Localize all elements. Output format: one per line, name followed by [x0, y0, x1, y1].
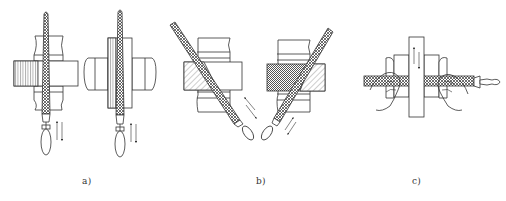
diagonal-filing-illustration [160, 0, 340, 201]
straight-filing-illustration [0, 0, 170, 201]
panel-a-straight-filing [0, 0, 170, 201]
caption-a: a) [82, 176, 91, 186]
panel-b-diagonal-filing [160, 0, 340, 201]
caption-c: c) [412, 176, 421, 186]
draw-filing-illustration [340, 0, 506, 201]
caption-b: b) [256, 176, 266, 186]
panel-c-draw-filing [340, 0, 506, 201]
